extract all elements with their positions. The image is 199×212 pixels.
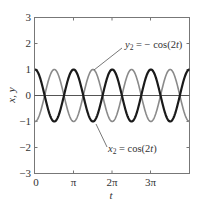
annotation-x2: x2 = cos(2t)	[107, 143, 157, 156]
annotation-pointer-x2	[96, 124, 107, 147]
x-tick-label: 3π	[145, 176, 157, 188]
y-tick-label: −3	[19, 167, 31, 179]
y-tick-label: 3	[26, 11, 32, 23]
annotation-y2: y2 = − cos(2t)	[124, 39, 183, 52]
x-tick-label: 2π	[106, 176, 118, 188]
y-tick-label: −1	[19, 115, 31, 127]
y-axis-label: x, y	[5, 87, 17, 103]
chart: 3 2 1 0 −1 −2 −3 0 π 2π 3π t x, y y2 = −…	[0, 0, 199, 212]
x-tick-label: 0	[33, 176, 39, 188]
y-tick-label: −2	[19, 141, 31, 153]
y-tick-label: 1	[26, 63, 32, 75]
annotation-pointer-y2	[94, 48, 122, 70]
x-axis-label: t	[109, 189, 113, 201]
y-tick-label: 2	[26, 37, 32, 49]
y-tick-label: 0	[26, 89, 32, 101]
x-tick-label: π	[71, 176, 77, 188]
